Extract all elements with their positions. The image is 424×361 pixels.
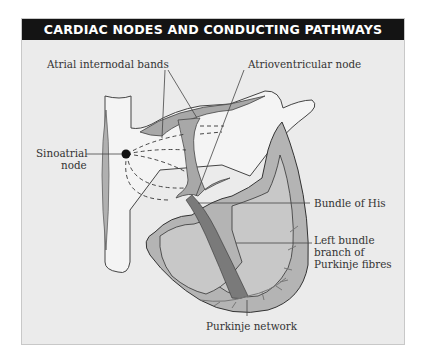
label-sinoatrial-node-1: Sinoatrial [36, 147, 88, 159]
label-left-bundle-1: Left bundle [314, 234, 375, 246]
label-bundle-of-his: Bundle of His [314, 197, 386, 209]
label-purkinje-network: Purkinje network [206, 320, 297, 332]
label-sinoatrial-node-2: node [61, 159, 87, 171]
label-atrial-internodal-bands: Atrial internodal bands [47, 58, 169, 70]
label-left-bundle-3: Purkinje fibres [314, 258, 392, 270]
label-atrioventricular-node: Atrioventricular node [248, 58, 361, 70]
label-left-bundle-2: branch of [314, 246, 364, 258]
sinoatrial-node-dot [122, 150, 131, 159]
heart-illustration [0, 0, 424, 361]
